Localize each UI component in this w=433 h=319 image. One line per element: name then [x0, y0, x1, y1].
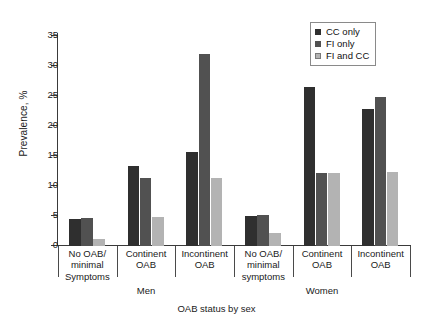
y-tick-label: 35 — [12, 30, 58, 40]
legend-item[interactable]: FI and CC — [315, 50, 369, 62]
legend-swatch-icon — [315, 41, 321, 47]
bar — [304, 87, 316, 246]
x-category-label-line: Symptoms — [58, 271, 117, 282]
x-category-label: No OAB/minimalsymptoms — [234, 248, 293, 282]
bar — [81, 218, 93, 246]
bar — [69, 219, 81, 246]
bar — [128, 166, 140, 246]
x-category-label-line: Continent — [293, 248, 352, 259]
x-category-label: IncontinentOAB — [351, 248, 410, 271]
x-category-label: ContinentOAB — [117, 248, 176, 271]
x-category-separator — [58, 246, 59, 277]
chart-figure: 05101520253035 Prevalence, % No OAB/mini… — [0, 0, 433, 319]
x-category-label-line: OAB — [175, 259, 234, 270]
bar — [257, 215, 269, 246]
bar — [387, 172, 399, 246]
y-tick-label: 0 — [12, 240, 58, 250]
legend-swatch-icon — [315, 53, 321, 59]
y-tick-label: 5 — [12, 210, 58, 220]
x-category-label-line: minimal — [234, 259, 293, 270]
x-category-label: ContinentOAB — [293, 248, 352, 271]
x-category-label-line: OAB — [293, 259, 352, 270]
bar — [93, 239, 105, 246]
x-category-label-line: minimal — [58, 259, 117, 270]
bar — [328, 173, 340, 246]
legend-label: FI only — [326, 39, 355, 49]
bar — [140, 178, 152, 246]
chart-legend: CC onlyFI onlyFI and CC — [310, 22, 376, 66]
x-group-label: Women — [234, 285, 410, 296]
legend-item[interactable]: FI only — [315, 38, 369, 50]
legend-label: CC only — [326, 27, 360, 37]
x-category-label-line: symptoms — [234, 271, 293, 282]
bar — [316, 173, 328, 246]
y-axis-title: Prevalence, % — [18, 54, 29, 194]
bar — [375, 97, 387, 246]
x-group-label: Men — [58, 285, 234, 296]
x-axis-title: OAB status by sex — [0, 303, 433, 314]
bar — [269, 233, 281, 246]
bar — [152, 217, 164, 246]
x-category-label-line: No OAB/ — [234, 248, 293, 259]
bar — [199, 54, 211, 246]
x-category-label: No OAB/minimalSymptoms — [58, 248, 117, 282]
x-category-label-line: Incontinent — [351, 248, 410, 259]
x-category-label: IncontinentOAB — [175, 248, 234, 271]
legend-label: FI and CC — [326, 51, 369, 61]
x-category-label-line: OAB — [351, 259, 410, 270]
bar — [245, 216, 257, 246]
bar — [211, 178, 223, 246]
legend-item[interactable]: CC only — [315, 26, 369, 38]
bar — [186, 152, 198, 246]
x-category-label-line: OAB — [117, 259, 176, 270]
x-category-label-line: No OAB/ — [58, 248, 117, 259]
x-category-label-line: Continent — [117, 248, 176, 259]
legend-swatch-icon — [315, 29, 321, 35]
x-category-label-line: Incontinent — [175, 248, 234, 259]
bar — [362, 109, 374, 246]
x-category-separator — [410, 246, 411, 277]
